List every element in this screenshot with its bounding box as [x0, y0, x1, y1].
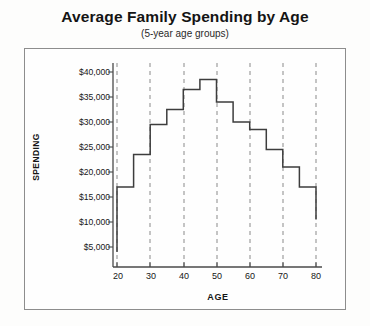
chart-svg	[0, 0, 370, 326]
chart-page: Average Family Spending by Age (5-year a…	[0, 0, 370, 326]
plot-area: SPENDING AGE $40,000 $35,000 $30,000 $25…	[0, 0, 370, 326]
axes	[108, 63, 322, 267]
